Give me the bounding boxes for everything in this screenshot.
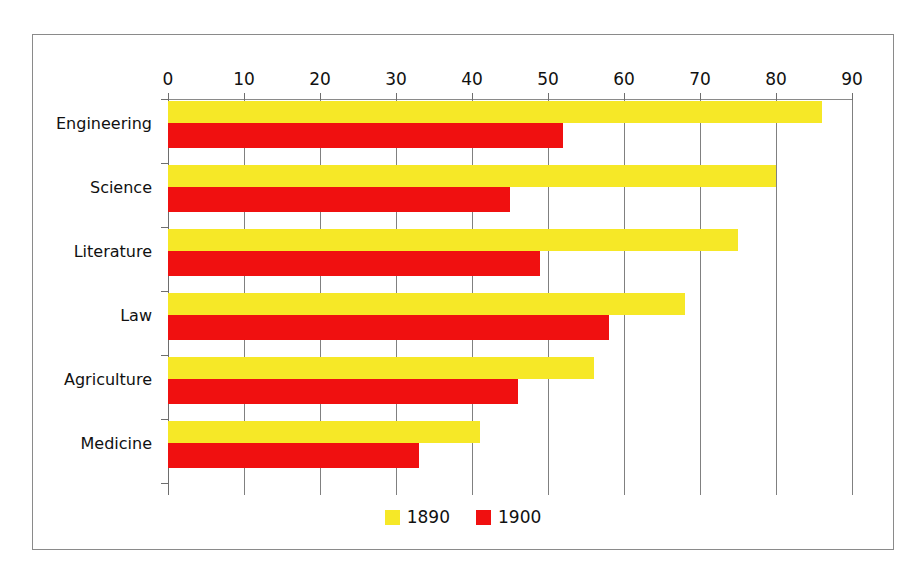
bar-1890-literature (168, 229, 738, 251)
y-tick-mark (161, 227, 168, 228)
chart-legend: 18901900 (33, 507, 893, 527)
category-row: Agriculture (168, 357, 852, 404)
category-label-literature: Literature (74, 242, 152, 261)
category-row: Literature (168, 229, 852, 276)
category-label-medicine: Medicine (81, 434, 152, 453)
y-tick-mark (161, 419, 168, 420)
x-tick-label: 50 (537, 69, 559, 89)
x-tick-label: 10 (233, 69, 255, 89)
x-tick-mark (472, 93, 473, 100)
y-axis-end-tick (161, 483, 168, 484)
bar-1900-agriculture (168, 379, 518, 404)
category-row: Law (168, 293, 852, 340)
bar-1890-medicine (168, 421, 480, 443)
x-tick-label: 90 (841, 69, 863, 89)
bar-1890-law (168, 293, 685, 315)
legend-swatch-1890 (385, 510, 400, 525)
bar-1900-law (168, 315, 609, 340)
x-tick-mark (776, 93, 777, 100)
chart-frame: 0102030405060708090 EngineeringScienceLi… (32, 34, 894, 550)
x-tick-mark (548, 93, 549, 100)
category-label-science: Science (90, 178, 152, 197)
x-tick-mark (244, 93, 245, 100)
legend-label-1900: 1900 (498, 507, 541, 527)
y-tick-mark (161, 163, 168, 164)
x-tick-mark (168, 93, 169, 100)
x-tick-label: 70 (689, 69, 711, 89)
plot-area: 0102030405060708090 EngineeringScienceLi… (168, 99, 852, 495)
x-tick-label: 40 (461, 69, 483, 89)
x-tick-mark (396, 93, 397, 100)
legend-entry-1890[interactable]: 1890 (385, 507, 450, 527)
x-tick-mark (852, 93, 853, 100)
legend-label-1890: 1890 (407, 507, 450, 527)
legend-entry-1900[interactable]: 1900 (476, 507, 541, 527)
legend-swatch-1900 (476, 510, 491, 525)
bar-1890-science (168, 165, 776, 187)
x-tick-mark (624, 93, 625, 100)
x-axis-line (168, 99, 852, 100)
bar-1900-science (168, 187, 510, 212)
category-label-agriculture: Agriculture (64, 370, 152, 389)
bar-1900-medicine (168, 443, 419, 468)
x-tick-label: 30 (385, 69, 407, 89)
category-row: Science (168, 165, 852, 212)
y-tick-mark (161, 291, 168, 292)
category-row: Engineering (168, 101, 852, 148)
bar-1900-literature (168, 251, 540, 276)
bar-1890-agriculture (168, 357, 594, 379)
x-tick-label: 80 (765, 69, 787, 89)
x-tick-mark (700, 93, 701, 100)
y-tick-mark (161, 99, 168, 100)
x-tick-label: 60 (613, 69, 635, 89)
category-label-engineering: Engineering (56, 114, 152, 133)
bar-1890-engineering (168, 101, 822, 123)
x-tick-label: 0 (163, 69, 174, 89)
bar-1900-engineering (168, 123, 563, 148)
category-label-law: Law (120, 306, 152, 325)
y-tick-mark (161, 355, 168, 356)
x-tick-label: 20 (309, 69, 331, 89)
x-tick-mark (320, 93, 321, 100)
category-row: Medicine (168, 421, 852, 468)
gridline (852, 99, 853, 495)
